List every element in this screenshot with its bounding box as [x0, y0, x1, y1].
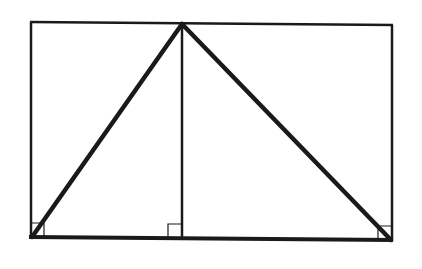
- right-angle-marker-altitude-foot: [168, 224, 182, 238]
- rect-top-side: [30, 22, 393, 25]
- triangle-left-side: [32, 24, 182, 237]
- rect-base: [29, 237, 393, 240]
- geometry-diagram: [0, 0, 422, 269]
- triangle-right-side: [182, 24, 391, 240]
